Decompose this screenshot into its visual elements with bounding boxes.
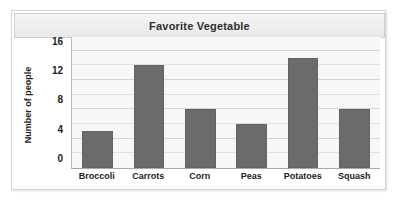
gridline [72,35,380,36]
y-axis-tick-label: 12 [52,65,63,81]
y-axis-tick-label: 0 [57,153,63,169]
bar-slot [72,37,123,168]
x-axis-category-label: Broccoli [71,171,123,181]
bar-series [72,37,380,168]
chart-card: Favorite Vegetable Number of people 0481… [11,10,386,190]
y-axis-tick-label: 8 [57,94,63,110]
x-axis-category-label: Carrots [123,171,175,181]
bar-slot [329,37,380,168]
bar-slot [277,37,328,168]
x-axis-category-label: Peas [226,171,278,181]
bar-potatoes[interactable] [288,58,319,168]
bar-slot [123,37,174,168]
bar-corn[interactable] [185,109,216,168]
x-axis-category-label: Corn [174,171,226,181]
y-axis-label: Number of people [20,45,36,165]
bar-peas[interactable] [236,124,267,168]
y-axis-ticks: 0481216 [38,45,66,169]
bar-broccoli[interactable] [82,131,113,168]
x-axis-categories: BroccoliCarrotsCornPeasPotatoesSquash [71,171,380,187]
y-axis-tick-label: 4 [57,124,63,140]
y-axis-tick-label: 16 [52,36,63,52]
bar-slot [175,37,226,168]
bar-squash[interactable] [339,109,370,168]
page-title: Favorite Vegetable [149,20,250,32]
y-axis-label-text: Number of people [23,67,33,144]
x-axis-category-label: Squash [329,171,381,181]
x-axis-category-label: Potatoes [277,171,329,181]
bar-slot [226,37,277,168]
bar-carrots[interactable] [134,65,165,168]
plot-area [71,37,380,169]
